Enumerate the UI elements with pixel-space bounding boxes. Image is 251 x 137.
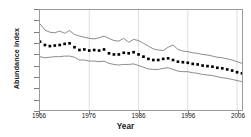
x-tick-mark [139,111,140,115]
x-tick-mark [188,111,189,115]
abundance-index-chart: Abundance index 1.81.61.41.210.80.60.40.… [0,0,251,137]
x-axis: 19661976198619962006 [0,0,251,137]
x-tick-mark [238,111,239,115]
x-tick-label: 2006 [218,113,251,119]
x-axis-title: Year [0,122,251,131]
x-tick-mark [39,111,40,115]
x-tick-mark [89,111,90,115]
